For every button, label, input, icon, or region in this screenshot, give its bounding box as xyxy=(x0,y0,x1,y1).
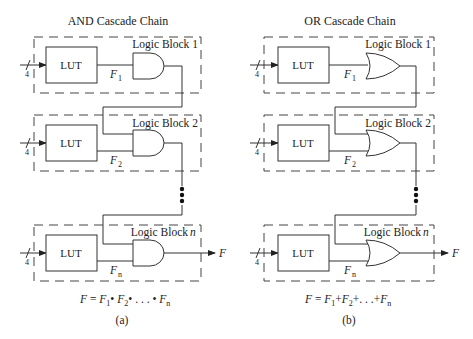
block-label: Logic Block xyxy=(131,226,188,239)
svg-text:4: 4 xyxy=(25,148,29,157)
and-gate-icon xyxy=(133,240,164,266)
svg-text:F = F1+F2+. . .+Fn: F = F1+F2+. . .+Fn xyxy=(304,293,391,308)
or-gate-icon xyxy=(366,130,400,156)
svg-text:1: 1 xyxy=(352,74,356,83)
svg-text:F: F xyxy=(109,154,118,166)
and-gate-icon xyxy=(133,130,164,156)
logic-block-2: Logic Block 2 4 LUT F 2 xyxy=(250,115,434,186)
or-gate-icon xyxy=(366,240,400,266)
svg-text:2: 2 xyxy=(118,160,122,169)
ellipsis-dots xyxy=(180,187,184,203)
output-label: F xyxy=(218,247,227,259)
svg-text:F = F1• F2• . . . • Fn: F = F1• F2• . . . • Fn xyxy=(79,293,170,308)
svg-text:LUT: LUT xyxy=(292,59,314,71)
svg-text:F: F xyxy=(343,264,352,276)
logic-block-n: Logic Block n 4 LUT F n F xyxy=(20,225,227,281)
svg-text:Logic Block 1: Logic Block 1 xyxy=(365,38,431,51)
logic-block-2: Logic Block 2 4 LUT F 2 xyxy=(20,115,201,186)
svg-text:4: 4 xyxy=(255,258,259,267)
svg-text:1: 1 xyxy=(118,74,122,83)
svg-text:n: n xyxy=(423,226,429,238)
svg-text:LUT: LUT xyxy=(60,137,82,149)
svg-text:F: F xyxy=(343,154,352,166)
equation: F = F1+F2+. . .+Fn xyxy=(304,293,391,308)
svg-text:n: n xyxy=(190,226,196,238)
caption: (a) xyxy=(116,314,129,327)
block-label: Logic Block 2 xyxy=(132,117,198,130)
svg-text:4: 4 xyxy=(255,148,259,157)
and-gate-icon xyxy=(133,53,164,79)
svg-text:2: 2 xyxy=(352,160,356,169)
cascade-chain-diagram: AND Cascade Chain Logic Block 1 4 LUT F … xyxy=(0,0,473,339)
svg-text:Logic Block 2: Logic Block 2 xyxy=(365,117,431,130)
caption: (b) xyxy=(342,314,356,327)
equation: F = F1• F2• . . . • Fn xyxy=(79,293,170,308)
ellipsis-dots xyxy=(414,187,418,203)
signal-label: F xyxy=(109,68,118,80)
block-label: Logic Block 1 xyxy=(132,38,198,51)
svg-text:F: F xyxy=(343,68,352,80)
svg-text:LUT: LUT xyxy=(292,247,314,259)
svg-text:4: 4 xyxy=(25,258,29,267)
lut-label: LUT xyxy=(60,59,82,71)
or-gate-icon xyxy=(366,53,400,79)
panel-and-cascade: AND Cascade Chain Logic Block 1 4 LUT F … xyxy=(20,14,227,327)
svg-text:F: F xyxy=(109,264,118,276)
svg-text:Logic Block: Logic Block xyxy=(364,226,421,239)
svg-text:LUT: LUT xyxy=(60,247,82,259)
bus-width: 4 xyxy=(25,70,29,79)
panel-or-cascade: OR Cascade Chain Logic Block 1 4 LUT F 1… xyxy=(250,14,460,327)
svg-text:LUT: LUT xyxy=(292,137,314,149)
svg-text:n: n xyxy=(118,270,122,279)
output-label: F xyxy=(451,247,460,259)
panel-title: AND Cascade Chain xyxy=(68,14,169,28)
panel-title: OR Cascade Chain xyxy=(304,14,395,28)
svg-text:n: n xyxy=(352,270,356,279)
svg-text:4: 4 xyxy=(255,70,259,79)
logic-block-n: Logic Block n 4 LUT F n F xyxy=(250,225,460,281)
